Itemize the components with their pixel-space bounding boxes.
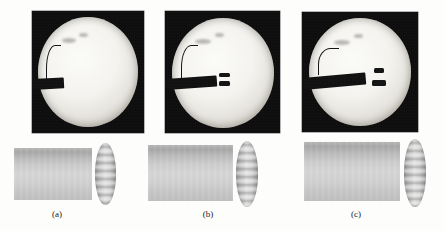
cylinder-body-c [304, 142, 400, 201]
internal-blob-a-2 [79, 33, 88, 37]
radiograph-image-a [32, 11, 144, 133]
internal-blob-b-2 [215, 33, 224, 37]
panel-label-a: (a) [44, 209, 70, 219]
panel-label-b: (b) [195, 209, 221, 219]
ribbed-cap-b [236, 141, 258, 207]
cylinder-body-b [148, 145, 233, 201]
cap-ribs-b [236, 141, 258, 207]
tip-marker-c-1 [374, 68, 384, 73]
cylinder-body-a [14, 148, 92, 200]
tip-marker-b-1 [219, 73, 230, 77]
internal-blob-b-1 [195, 39, 211, 44]
ribbed-cap-a [95, 143, 116, 205]
radiograph-image-c [302, 12, 418, 132]
radiograph-image-b [165, 11, 280, 133]
internal-blob-a-1 [62, 38, 76, 43]
ribbed-cap-c [404, 139, 426, 207]
tip-marker-b-2 [219, 81, 230, 86]
cap-ribs-c [404, 139, 426, 207]
guidewire-c [318, 48, 339, 75]
cap-ribs-a [95, 143, 116, 205]
panel-label-c: (c) [343, 209, 369, 219]
tip-marker-c-2 [372, 80, 386, 86]
instrument-rod-a [32, 77, 64, 90]
figure-container: (a) (b) [0, 0, 444, 231]
internal-blob-c-1 [334, 40, 350, 45]
internal-blob-c-2 [354, 34, 363, 38]
